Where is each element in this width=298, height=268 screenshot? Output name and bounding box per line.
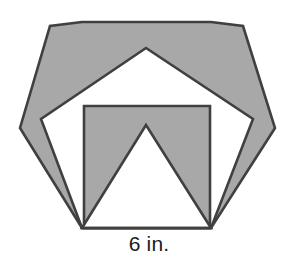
base-dimension-label: 6 in. [0, 231, 298, 257]
geometry-figure: 6 in. [0, 0, 298, 268]
nested-polygons-diagram [0, 0, 298, 268]
